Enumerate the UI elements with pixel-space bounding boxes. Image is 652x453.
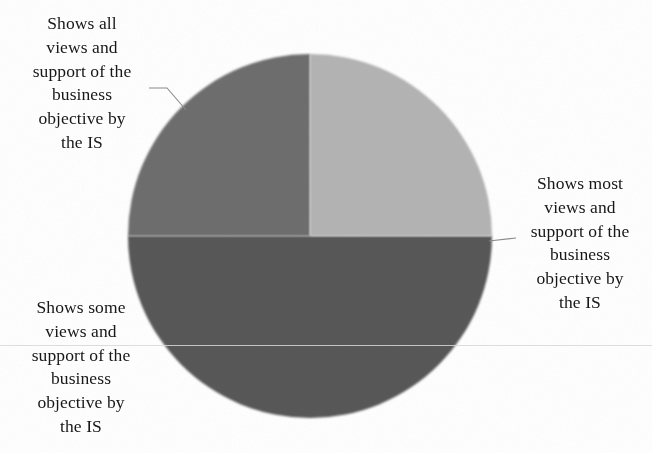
- pie-label-all-line-3: support of the: [12, 60, 152, 84]
- pie-label-most-line-1: Shows most: [512, 172, 648, 196]
- pie-label-some-line-1: Shows some: [10, 296, 152, 320]
- pie-label-some-line-5: objective by: [10, 391, 152, 415]
- pie-label-most-line-4: business: [512, 243, 648, 267]
- pie-label-all-line-2: views and: [12, 36, 152, 60]
- pie-label-most-line-3: support of the: [512, 220, 648, 244]
- pie-label-some-line-2: views and: [10, 320, 152, 344]
- pie-label-all-line-6: the IS: [12, 131, 152, 155]
- pie-label-most-line-6: the IS: [512, 291, 648, 315]
- pie-chart-figure: Shows all views and support of the busin…: [0, 0, 652, 453]
- pie-label-some: Shows some views and support of the busi…: [10, 296, 152, 439]
- leader-line-all: [149, 88, 186, 110]
- pie-label-most: Shows most views and support of the busi…: [512, 172, 648, 315]
- pie-slice-all[interactable]: [128, 54, 310, 236]
- pie-slice-some[interactable]: [310, 54, 492, 236]
- pie-slice-most[interactable]: [128, 236, 492, 418]
- pie-label-all-line-5: objective by: [12, 107, 152, 131]
- pie-label-all-line-1: Shows all: [12, 12, 152, 36]
- pie-label-some-line-6: the IS: [10, 415, 152, 439]
- pie-label-most-line-2: views and: [512, 196, 648, 220]
- pie-label-most-line-5: objective by: [512, 267, 648, 291]
- pie-label-some-line-4: business: [10, 367, 152, 391]
- pie-label-some-line-3: support of the: [10, 344, 152, 368]
- pie-label-all: Shows all views and support of the busin…: [12, 12, 152, 155]
- pie-label-all-line-4: business: [12, 83, 152, 107]
